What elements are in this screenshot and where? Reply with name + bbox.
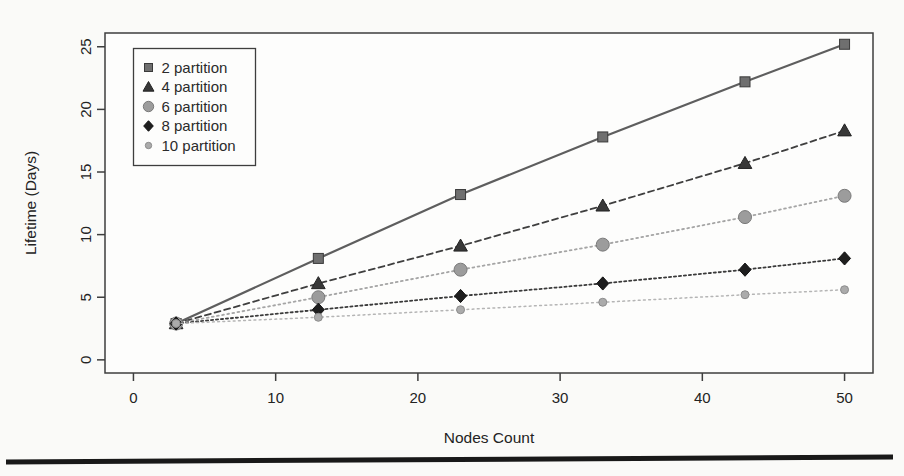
y-axis-tick-label: 20 [77, 101, 94, 118]
x-axis-tick-label: 10 [267, 389, 284, 406]
x-axis-tick-label: 30 [552, 389, 569, 406]
series-marker-circle [454, 263, 467, 276]
series-marker-square [598, 132, 608, 142]
series-marker-circle [599, 298, 607, 306]
series-marker-square-legend [145, 64, 153, 72]
y-axis-tick-label: 0 [77, 356, 94, 364]
series-marker-circle [172, 320, 180, 328]
legend-label: 6 partition [162, 98, 228, 115]
series-marker-circle [741, 291, 749, 299]
series-marker-circle-legend [145, 142, 151, 148]
legend-label: 8 partition [162, 117, 228, 134]
y-axis-title: Lifetime (Days) [22, 151, 39, 255]
series-marker-circle-legend [143, 101, 153, 111]
series-marker-circle [841, 286, 849, 294]
x-axis-tick-label: 20 [410, 389, 427, 406]
series-marker-square [840, 39, 850, 49]
series-marker-square [740, 77, 750, 87]
y-axis-tick-label: 25 [77, 38, 94, 55]
y-axis-tick-label: 5 [77, 293, 94, 301]
series-marker-circle [739, 211, 752, 224]
series-marker-circle [838, 189, 851, 202]
x-axis-tick-label: 40 [694, 389, 711, 406]
x-axis-tick-label: 50 [836, 389, 853, 406]
series-marker-square [456, 190, 466, 200]
page-divider-bar [6, 455, 893, 465]
series-marker-circle [457, 306, 465, 314]
series-marker-circle [314, 313, 322, 321]
y-axis-tick-label: 15 [77, 164, 94, 181]
x-axis-title: Nodes Count [444, 429, 535, 446]
series-marker-square [313, 253, 323, 263]
series-marker-circle [596, 238, 609, 251]
lifetime-vs-nodes-chart: 0102030405005101520252 partition4 partit… [0, 0, 904, 452]
chart-generated-content: 0102030405005101520252 partition4 partit… [77, 33, 873, 406]
y-axis-tick-label: 10 [77, 226, 94, 243]
legend-label: 10 partition [162, 137, 236, 154]
scanned-page: 0102030405005101520252 partition4 partit… [0, 0, 904, 476]
series-marker-circle [312, 291, 325, 304]
x-axis-tick-label: 0 [129, 389, 137, 406]
legend-label: 4 partition [162, 78, 228, 95]
legend-label: 2 partition [162, 59, 228, 76]
